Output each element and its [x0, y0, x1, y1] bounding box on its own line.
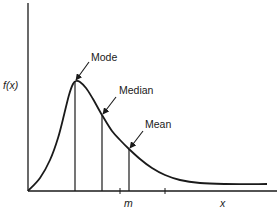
y-axis-label: f(x) — [3, 79, 18, 91]
x-axis-label: x — [219, 197, 226, 209]
median-arrow — [103, 97, 116, 114]
median-label: Median — [119, 84, 154, 96]
mean-label: Mean — [145, 118, 171, 130]
skewed-distribution-diagram: f(x) x m Mode Median Mean — [0, 0, 279, 212]
mean-arrow — [130, 131, 143, 148]
x-tick-label-m: m — [124, 197, 133, 209]
density-curve — [28, 81, 267, 191]
mode-arrow — [76, 62, 89, 80]
mode-label: Mode — [91, 51, 117, 63]
